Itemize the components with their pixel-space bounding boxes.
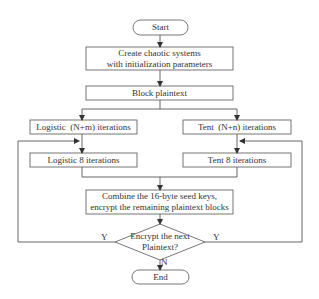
combine-label-line2: encrypt the remaining plaintext blocks — [90, 202, 228, 213]
decision-label-line1: Encrypt the next — [130, 231, 189, 242]
edge-logistic8-combine — [82, 167, 160, 177]
tent-8-label: Tent 8 iterations — [183, 153, 291, 167]
yes-right-label: Y — [213, 232, 220, 243]
create-label-line2: with initialization parameters — [107, 59, 212, 70]
edge-block-tent — [160, 109, 237, 120]
flowchart-canvas — [0, 0, 319, 299]
edge-block-logistic — [82, 109, 160, 120]
create-label: Create chaotic systems with initializati… — [86, 47, 233, 70]
end-label: End — [132, 270, 189, 284]
no-label: N — [161, 257, 168, 268]
start-label: Start — [133, 20, 188, 35]
block-plaintext-label: Block plaintext — [86, 86, 233, 100]
logistic-nm-label: Logistic (N+m) iterations — [30, 120, 137, 134]
combine-label: Combine the 16-byte seed keys, encrypt t… — [86, 190, 233, 214]
decision-label: Encrypt the next Plaintext? — [115, 231, 205, 253]
tent-nn-label: Tent (N+n) iterations — [183, 120, 291, 134]
create-label-line1: Create chaotic systems — [118, 48, 200, 59]
edge-tent8-combine — [160, 167, 237, 177]
combine-label-line1: Combine the 16-byte seed keys, — [102, 191, 217, 202]
decision-label-line2: Plaintext? — [142, 242, 178, 253]
logistic-8-label: Logistic 8 iterations — [30, 153, 137, 167]
yes-left-label: Y — [101, 232, 108, 243]
